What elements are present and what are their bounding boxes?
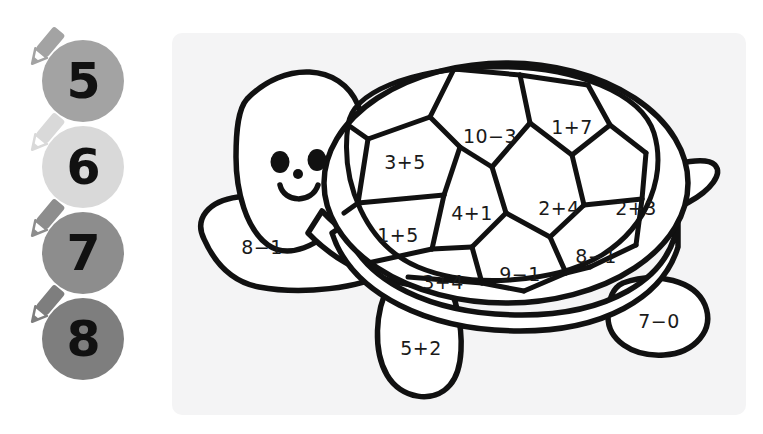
nose-dot-icon xyxy=(293,169,303,179)
legend-number-7: 7 xyxy=(66,229,99,278)
worksheet-canvas: 5 6 xyxy=(0,0,763,434)
equation-shell-mid-left: 1+5 xyxy=(377,224,419,246)
equation-rear-leg: 7−0 xyxy=(638,310,680,332)
eye-icon xyxy=(308,149,327,171)
legend-item-6[interactable]: 6 xyxy=(0,108,160,203)
legend-number-6: 6 xyxy=(66,143,99,192)
eye-icon xyxy=(271,151,290,173)
legend-item-7[interactable]: 7 xyxy=(0,194,160,289)
equation-shell-top-middle: 10−3 xyxy=(463,125,517,147)
equation-shell-top-right: 1+7 xyxy=(551,116,593,138)
legend-number-8: 8 xyxy=(66,315,99,364)
legend-color-swatch-8[interactable]: 8 xyxy=(42,298,124,380)
color-key-legend: 5 6 xyxy=(0,0,160,434)
legend-item-8[interactable]: 8 xyxy=(0,280,160,375)
equation-shell-top-left: 3+5 xyxy=(384,151,426,173)
equation-shell-mid-right: 2+4 xyxy=(538,197,580,219)
equation-shell-bottom-left: 3+4 xyxy=(422,271,464,293)
equation-shell-bottom-center: 9−1 xyxy=(499,263,541,285)
shell-plate-divider xyxy=(432,247,472,249)
equation-shell-mid-far-right: 2+3 xyxy=(615,197,657,219)
legend-number-5: 5 xyxy=(66,57,99,106)
equation-front-flipper: 8−1 xyxy=(241,236,283,258)
equation-shell-bottom-right: 8−1 xyxy=(575,245,617,267)
picture-panel: 3+5 10−3 1+7 1+5 4+1 2+4 2+3 3+4 9−1 8−1… xyxy=(172,33,746,415)
turtle-illustration: 3+5 10−3 1+7 1+5 4+1 2+4 2+3 3+4 9−1 8−1… xyxy=(172,33,746,415)
equation-shell-mid-center: 4+1 xyxy=(451,202,493,224)
equation-front-leg: 5+2 xyxy=(400,337,442,359)
legend-item-5[interactable]: 5 xyxy=(0,22,160,117)
